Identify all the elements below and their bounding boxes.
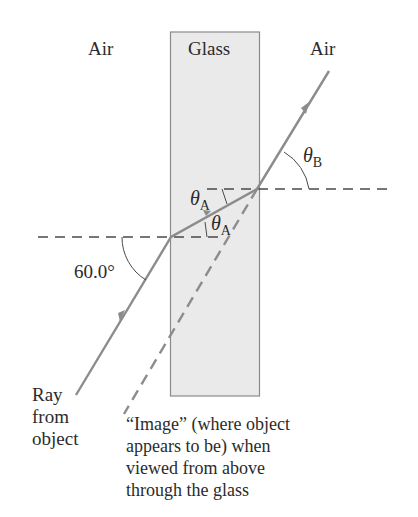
label-glass: Glass	[188, 38, 230, 59]
label-theta-b: θB	[303, 144, 322, 170]
refraction-diagram: Air Glass Air θA θA θB 60.0° Ray from ob…	[0, 0, 418, 517]
label-ray-line-2: from	[32, 406, 69, 427]
label-ray-line-3: object	[32, 428, 79, 449]
caption-line-1: “Image” (where object	[126, 414, 290, 435]
caption-line-3: viewed from above	[126, 458, 265, 478]
caption-line-2: appears to be) when	[126, 436, 270, 457]
label-angle-60: 60.0°	[74, 261, 115, 282]
angle-arc-60	[122, 237, 146, 280]
label-air-right: Air	[310, 38, 336, 59]
caption-line-4: through the glass	[126, 480, 249, 500]
label-ray-line-1: Ray	[32, 384, 63, 405]
label-air-left: Air	[88, 38, 114, 59]
